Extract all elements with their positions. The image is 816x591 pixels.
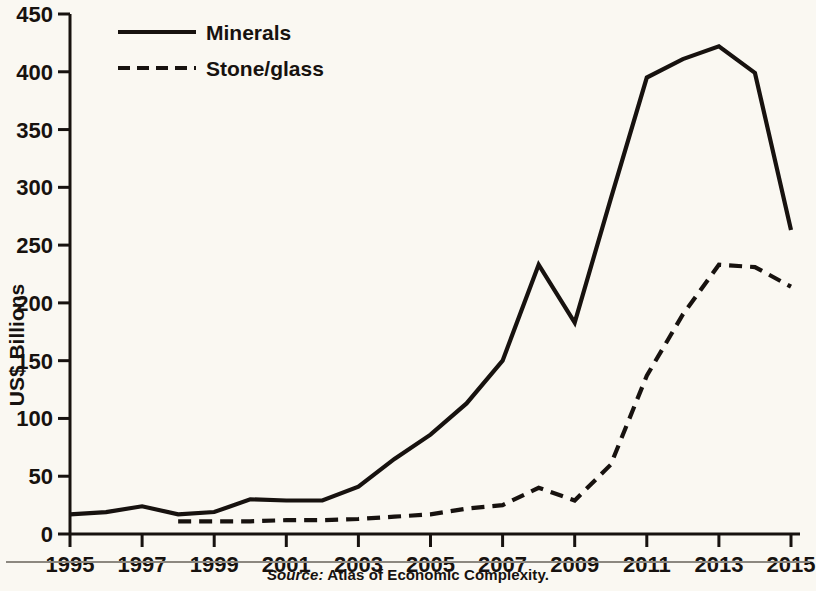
footer-divider [6, 561, 810, 563]
y-tick-label: 150 [16, 349, 53, 374]
series-line-minerals [70, 46, 791, 514]
source-label: Source: [267, 566, 324, 583]
line-chart-plot: US$ Billions 050100150200250300350400450… [0, 0, 816, 591]
y-tick-label: 400 [16, 60, 53, 85]
series-line-stone-glass [178, 265, 791, 522]
y-tick-label: 0 [41, 522, 53, 547]
source-note: Source: Atlas of Economic Complexity. [0, 566, 816, 583]
source-footer: Source: Atlas of Economic Complexity. [0, 561, 816, 591]
chart-legend: MineralsStone/glass [118, 21, 324, 80]
legend-label-stone-glass: Stone/glass [206, 57, 324, 80]
y-tick-label: 250 [16, 233, 53, 258]
y-tick-label: 100 [16, 406, 53, 431]
y-tick-label: 350 [16, 118, 53, 143]
y-tick-group: 050100150200250300350400450 [16, 2, 70, 547]
y-tick-label: 450 [16, 2, 53, 27]
chart-figure: US$ Billions 050100150200250300350400450… [0, 0, 816, 591]
y-tick-label: 200 [16, 291, 53, 316]
legend-label-minerals: Minerals [206, 21, 291, 44]
source-value: Atlas of Economic Complexity. [324, 566, 550, 583]
y-tick-label: 300 [16, 175, 53, 200]
data-series-group [70, 46, 791, 521]
y-axis: 050100150200250300350400450 [16, 2, 70, 547]
y-tick-label: 50 [29, 464, 53, 489]
